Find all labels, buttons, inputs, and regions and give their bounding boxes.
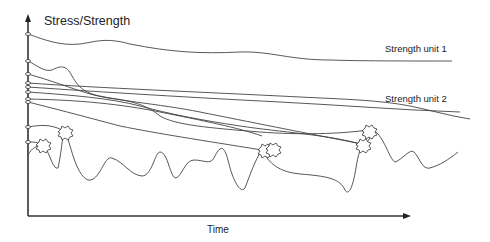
x-axis-arrow-icon — [403, 213, 411, 219]
failure-burst-icon — [356, 139, 371, 153]
failure-burst-icon — [362, 125, 377, 139]
stress-strength-diagram — [0, 0, 490, 242]
x-axis-title: Time — [207, 224, 229, 235]
strength-curve-6 — [28, 92, 360, 144]
strength-curve-9 — [28, 125, 62, 130]
failure-burst-icon — [58, 126, 73, 140]
y-axis-arrow-icon — [25, 14, 31, 22]
stress-curve — [28, 132, 458, 192]
failure-burst-icon — [36, 139, 51, 153]
strength-unit-1-label: Strength unit 1 — [385, 43, 447, 54]
y-axis-title: Stress/Strength — [44, 14, 130, 28]
strength-unit-2-label: Strength unit 2 — [385, 93, 447, 104]
